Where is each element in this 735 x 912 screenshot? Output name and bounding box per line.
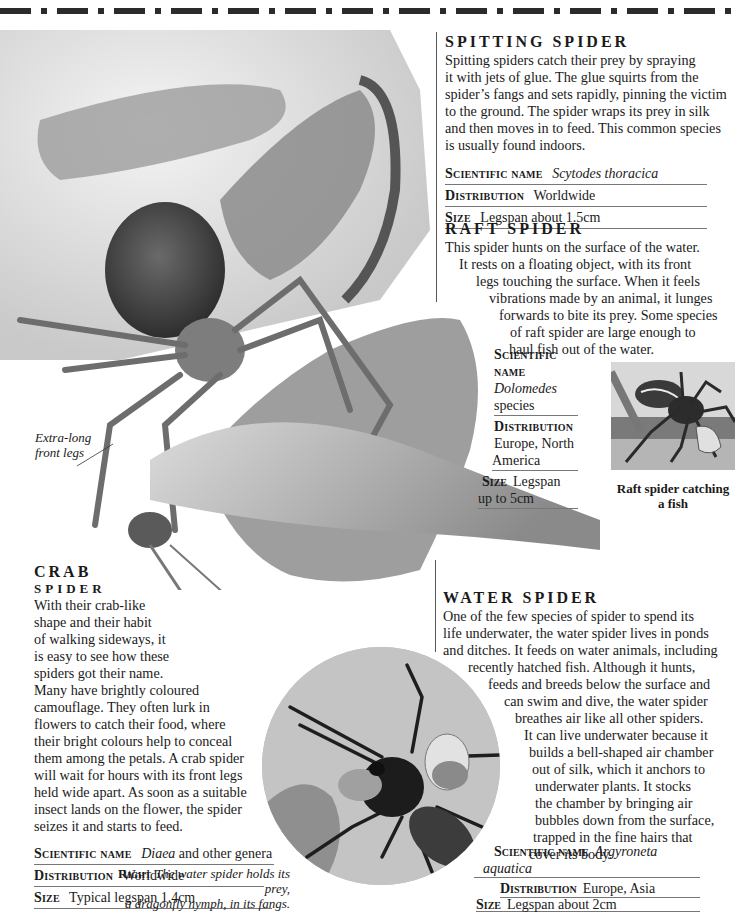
- body-line: life underwater, the water spider lives …: [443, 625, 735, 642]
- water-spider-vertical-rule: [435, 560, 436, 652]
- fact-label: Size: [476, 897, 501, 912]
- water-spider-section: Water spider One of the few species of s…: [443, 590, 735, 863]
- caption-line: a dragonfly nymph, in its fangs.: [110, 896, 290, 911]
- body-line: their bright colours help to conceal: [34, 733, 294, 750]
- fact-label: Scientific name: [494, 347, 557, 379]
- fact-size: SizeLegspan up to 5cm: [478, 471, 578, 509]
- body-line: spider’s fangs and sets rapidly, pinning…: [445, 86, 730, 103]
- body-line: flowers to catch their food, where: [34, 716, 294, 733]
- caption-label: Right: [118, 866, 151, 881]
- fact-distribution: Distribution Europe, North America: [478, 416, 578, 471]
- body-line: recently hatched fish. Although it hunts…: [443, 659, 735, 676]
- raft-spider-photo-caption: Raft spider catching a fish: [611, 481, 735, 511]
- crab-spider-section: Crab spider With their crab-like shape a…: [34, 563, 294, 909]
- body-line: held wide apart. As soon as a suitable: [34, 784, 294, 801]
- body-line: of walking sideways, it: [34, 631, 294, 648]
- fact-value: up to 5cm: [478, 490, 578, 509]
- fact-value: Argyroneta: [595, 844, 658, 859]
- fact-value: and other genera: [175, 846, 272, 861]
- body-line: legs touching the surface. When it feels: [445, 273, 735, 290]
- fact-label: Size: [482, 474, 507, 489]
- caption-line: a fish: [611, 496, 735, 511]
- crab-spider-heading: Crab spider: [34, 563, 294, 597]
- raft-spider-facts: Scientific name Dolomedes species Distri…: [478, 346, 578, 509]
- body-line: insect lands on the flower, the spider: [34, 801, 294, 818]
- fact-value: America: [492, 452, 578, 471]
- fact-label: Distribution: [494, 419, 573, 434]
- caption-line: The water spider holds its prey,: [155, 866, 290, 896]
- fact-value: species: [494, 397, 578, 416]
- fact-scientific-name: Scientific name Diaea and other genera: [34, 843, 274, 865]
- water-spider-body: One of the few species of spider to spen…: [443, 608, 735, 863]
- fact-size: SizeLegspan about 2cm: [476, 898, 700, 912]
- spitting-spider-vertical-rule: [436, 32, 437, 302]
- fact-value: Europe, North: [494, 435, 578, 452]
- body-line: and then moves in to feed. This common s…: [445, 120, 730, 137]
- body-line: It can live underwater because it: [443, 727, 735, 744]
- fact-label: Distribution: [34, 868, 113, 883]
- body-line: is usually found indoors.: [445, 137, 730, 154]
- body-line: spiders got their name.: [34, 665, 294, 682]
- fact-value: Scytodes thoracica: [552, 166, 658, 181]
- raft-spider-photo: [611, 362, 735, 470]
- fact-distribution: DistributionEurope, Asia: [500, 880, 700, 898]
- body-line: them among the petals. A crab spider: [34, 750, 294, 767]
- fact-scientific-name: Scientific nameArgyroneta: [474, 843, 700, 860]
- body-line: This spider hunts on the surface of the …: [445, 239, 735, 256]
- header-dashed-rule: [0, 8, 735, 14]
- fact-value: Dolomedes: [494, 381, 557, 396]
- water-spider-photo-caption: RightThe water spider holds its prey, a …: [110, 866, 290, 911]
- body-line: With their crab-like: [34, 597, 294, 614]
- caption-line: Raft spider catching: [611, 481, 735, 496]
- raft-spider-heading: Raft spider: [445, 221, 735, 237]
- body-line: Many have brightly coloured: [34, 682, 294, 699]
- body-line: It rests on a floating object, with its …: [445, 256, 735, 273]
- fact-value-italic: Diaea: [141, 846, 175, 861]
- fact-distribution: Distribution Worldwide: [445, 185, 707, 207]
- body-line: can swim and dive, the water spider: [443, 693, 735, 710]
- body-line: vibrations made by an animal, it lunges: [445, 290, 735, 307]
- body-line: One of the few species of spider to spen…: [443, 608, 735, 625]
- spitting-spider-heading: Spitting spider: [445, 34, 730, 50]
- body-line: to the ground. The spider wraps its prey…: [445, 103, 730, 120]
- body-line: bubbles down from the surface,: [443, 812, 735, 829]
- body-line: seizes it and starts to feed.: [34, 818, 294, 835]
- body-line: breathes air like all other spiders.: [443, 710, 735, 727]
- body-line: builds a bell-shaped air chamber: [443, 744, 735, 761]
- fact-label: Distribution: [500, 881, 577, 896]
- water-spider-facts: Scientific nameArgyroneta aquatica: [474, 843, 700, 878]
- fact-value: Europe, Asia: [583, 881, 655, 896]
- body-line: of raft spider are large enough to: [445, 324, 735, 341]
- fact-value: aquatica: [483, 861, 532, 876]
- annotation-leader-line: [75, 440, 115, 470]
- spitting-spider-body: Spitting spiders catch their prey by spr…: [445, 52, 730, 154]
- body-line: forwards to bite its prey. Some species: [445, 307, 735, 324]
- fact-value: Worldwide: [533, 188, 595, 203]
- body-line: will wait for hours with its front legs: [34, 767, 294, 784]
- body-line: feeds and breeds below the surface and: [443, 676, 735, 693]
- fact-value: Legspan about 2cm: [507, 897, 617, 912]
- heading-line: Crab: [34, 563, 294, 580]
- body-line: underwater plants. It stocks: [443, 778, 735, 795]
- fact-label: Scientific name: [494, 844, 589, 859]
- raft-spider-body: This spider hunts on the surface of the …: [445, 239, 735, 358]
- fact-scientific-name: Scientific name Dolomedes species: [478, 346, 578, 416]
- fact-scientific-name: Scientific name Scytodes thoracica: [445, 163, 707, 185]
- body-line: out of silk, which it anchors to: [443, 761, 735, 778]
- body-line: the chamber by bringing air: [443, 795, 735, 812]
- body-line: shape and their habit: [34, 614, 294, 631]
- fact-value: Legspan: [513, 474, 560, 489]
- body-line: camouflage. They often lurk in: [34, 699, 294, 716]
- heading-line: spider: [34, 580, 294, 597]
- body-line: Spitting spiders catch their prey by spr…: [445, 52, 730, 69]
- body-line: is easy to see how these: [34, 648, 294, 665]
- crab-spider-body: With their crab-like shape and their hab…: [34, 597, 294, 835]
- fact-label: Distribution: [445, 188, 524, 203]
- fact-label: Size: [34, 890, 60, 905]
- water-spider-heading: Water spider: [443, 590, 735, 606]
- spitting-spider-section: Spitting spider Spitting spiders catch t…: [445, 34, 730, 229]
- fact-label: Scientific name: [34, 846, 132, 861]
- raft-spider-section: Raft spider This spider hunts on the sur…: [445, 221, 735, 358]
- body-line: it with jets of glue. The glue squirts f…: [445, 69, 730, 86]
- body-line: and ditches. It feeds on water animals, …: [443, 642, 735, 659]
